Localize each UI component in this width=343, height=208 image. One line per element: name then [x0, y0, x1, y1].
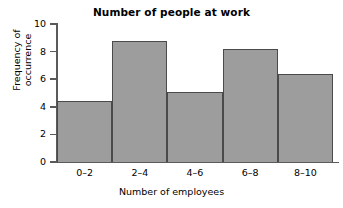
x-axis-tick-label: 0–2: [55, 168, 115, 178]
x-axis-label: Number of employees: [0, 186, 343, 197]
x-axis-tick-label: 6–8: [220, 168, 280, 178]
y-axis-tick: [50, 161, 57, 163]
y-axis-tick: [50, 23, 57, 25]
y-axis-tick: [50, 134, 57, 136]
y-axis-tick: [50, 51, 57, 53]
y-axis-tick-label: 0: [16, 157, 46, 167]
x-axis-tick-label: 2–4: [110, 168, 170, 178]
histogram-figure: Number of people at work Frequency of oc…: [0, 0, 343, 208]
y-axis-tick-label: 8: [16, 47, 46, 57]
bar: [57, 101, 112, 162]
bar: [112, 41, 167, 162]
y-axis-tick-label: 4: [16, 102, 46, 112]
bar: [223, 49, 278, 162]
y-axis-tick-label: 2: [16, 130, 46, 140]
x-axis-tick-label: 4–6: [165, 168, 225, 178]
bar: [167, 92, 222, 162]
bar: [278, 74, 333, 162]
y-axis-tick-label: 10: [16, 19, 46, 29]
y-axis-tick: [50, 106, 57, 108]
y-axis-tick-label: 6: [16, 74, 46, 84]
y-axis-tick: [50, 78, 57, 80]
plot-area: [57, 24, 333, 162]
chart-title: Number of people at work: [0, 6, 343, 18]
x-axis-tick-label: 8–10: [275, 168, 335, 178]
bars-container: [57, 24, 333, 162]
